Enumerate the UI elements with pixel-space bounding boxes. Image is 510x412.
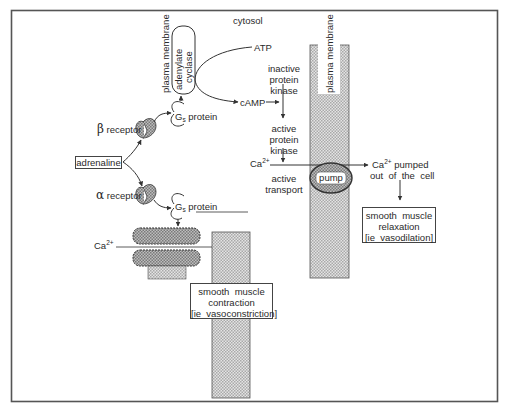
adrenaline-to-alpha-arrow: [123, 162, 142, 186]
alpha-receptor-label: α receptor: [96, 190, 142, 201]
active-protein-kinase-label: active protein kinase: [266, 123, 302, 156]
ca-channel-top: [133, 228, 200, 244]
alpha-receptor-shape: [143, 185, 156, 204]
adrenaline-box: adrenaline: [75, 156, 122, 169]
active-transport-label: active transport: [262, 173, 306, 195]
diagram-frame: [12, 11, 498, 402]
smooth-muscle-relaxation-box: smooth muscle relaxation [ie vasodilatio…: [362, 207, 436, 243]
pump-label: pump: [316, 172, 346, 183]
atp-label: ATP: [254, 42, 272, 53]
g-protein-top-label: Gs protein: [175, 111, 217, 122]
camp-label: cAMP: [240, 97, 265, 108]
adrenaline-to-beta-arrow: [123, 140, 141, 162]
adenylate-cyclase-label-2: cyclase: [183, 51, 194, 83]
ca-channel-bottom: [133, 250, 200, 266]
ca-channel-stem: [148, 266, 186, 279]
cytosol-label: cytosol: [233, 15, 263, 26]
diagram-canvas: cytosol plasma membrane adenylate cyclas…: [0, 0, 510, 412]
inactive-protein-kinase-label: inactive protein kinase: [266, 63, 302, 96]
smooth-muscle-contraction-box: smooth muscle contraction [ie vasoconstr…: [190, 283, 273, 319]
plasma-membrane-right-label: plasma membrane: [324, 14, 335, 93]
ca-pumped-label: Ca2+ pumped out of the cell: [372, 159, 434, 181]
plasma-membrane-left-label: plasma membrane: [160, 14, 171, 93]
atp-to-camp-curve: [195, 47, 252, 102]
g-protein-bottom-label: Gs protein: [175, 201, 217, 212]
ca-channel-label: Ca2+: [94, 240, 114, 251]
ca-left-label: Ca2+: [250, 158, 270, 169]
diagram-graphics: [0, 0, 510, 412]
beta-receptor-label: β receptor: [97, 124, 141, 135]
